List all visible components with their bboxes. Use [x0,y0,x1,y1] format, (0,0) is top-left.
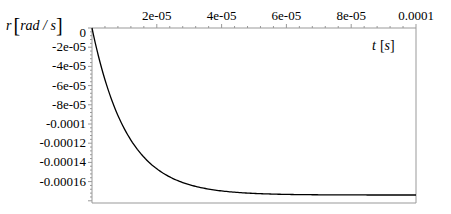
x-tick-label: 2e-05 [142,8,172,23]
x-tick-label: 8e-05 [336,8,366,23]
y-tick-label: 0 [80,25,87,40]
y-tick-label: -8e-05 [52,97,86,112]
line-chart: 2e-054e-056e-058e-050.0001 0-2e-05-4e-05… [0,0,451,214]
x-axis-ticks: 2e-054e-056e-058e-050.0001 [105,8,434,28]
y-tick-label: -0.00014 [39,154,86,169]
y-axis-title: r[rad / s] [6,14,63,36]
x-axis-title: t[s] [372,38,395,53]
y-tick-label: -0.00012 [39,135,86,150]
y-tick-label: -4e-05 [52,58,86,73]
x-axis-variable: t [372,38,377,53]
x-tick-label: 4e-05 [207,8,237,23]
plot-frame [92,28,416,203]
data-curve [92,28,416,195]
y-axis-unit: rad / s [20,18,56,33]
y-tick-label: -0.00016 [39,174,86,189]
y-tick-label: -0.0001 [46,116,86,131]
y-axis-ticks: 0-2e-05-4e-05-6e-05-8e-05-0.0001-0.00012… [39,25,92,201]
y-axis-variable: r [6,18,12,33]
x-tick-label: 0.0001 [398,8,434,23]
y-tick-label: -2e-05 [52,39,86,54]
y-tick-label: -6e-05 [52,78,86,93]
x-tick-label: 6e-05 [272,8,302,23]
